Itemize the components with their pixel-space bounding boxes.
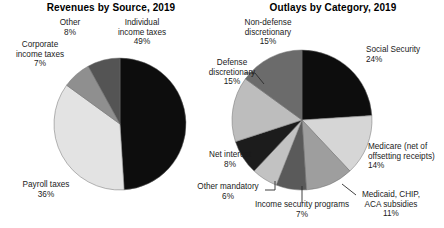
label-defense-discretionary: Defense discretionary 15%	[190, 58, 274, 87]
label-other: Other 8%	[42, 18, 98, 37]
label-income-security-programs: Income security programs 7%	[242, 200, 362, 219]
revenues-pie-panel: Revenues by Source, 2019 Other 8% Indivi…	[0, 0, 222, 228]
pie-slice	[120, 58, 186, 190]
label-medicare: Medicare (net of offsetting receipts) 14…	[368, 142, 444, 171]
label-social-security: Social Security 24%	[366, 45, 444, 64]
label-other-mandatory: Other mandatory 6%	[190, 182, 266, 201]
label-corporate-income-taxes: Corporate income taxes 7%	[2, 40, 78, 69]
label-non-defense-discretionary: Non-defense discretionary 15%	[222, 18, 314, 47]
pie-slice	[302, 50, 372, 120]
label-medicaid-chip-aca: Medicaid, CHIP, ACA subsidies 11%	[352, 190, 430, 219]
outlays-pie-panel: Outlays by Category, 2019 Non-defense di…	[222, 0, 444, 228]
two-pie-chart-figure: Revenues by Source, 2019 Other 8% Indivi…	[0, 0, 444, 228]
label-net-interest: Net interest 8%	[194, 150, 266, 169]
label-payroll-taxes: Payroll taxes 36%	[6, 180, 86, 199]
label-individual-income-taxes: Individual income taxes 49%	[104, 18, 180, 47]
